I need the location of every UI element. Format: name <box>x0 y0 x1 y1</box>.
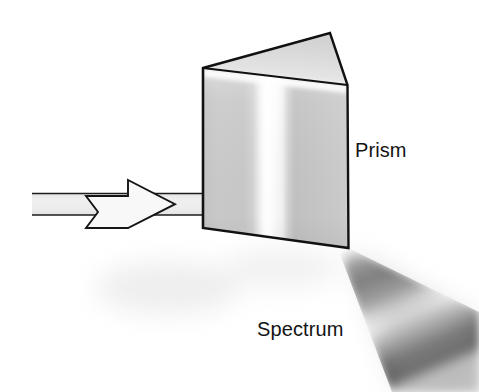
spectrum-label: Spectrum <box>257 319 343 339</box>
figure-canvas: Prism Spectrum <box>0 0 479 392</box>
prism-label: Prism <box>355 140 407 160</box>
prism-dispersion-diagram <box>0 0 479 392</box>
prism-solid <box>203 33 349 260</box>
prism-internal-beam-highlight <box>262 60 273 260</box>
prism-front-shading <box>203 68 349 248</box>
